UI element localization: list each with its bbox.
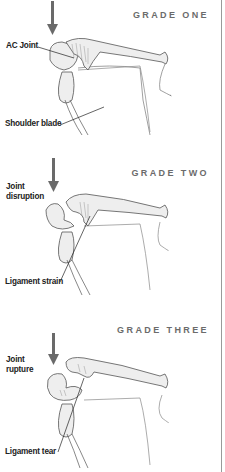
right-border: [221, 0, 222, 472]
grade-title: GRADE TWO: [131, 168, 209, 178]
force-arrow-icon: [48, 158, 59, 192]
label-joint-disruption: Joint disruption: [6, 182, 44, 202]
label-shoulder-blade: Shoulder blade: [5, 119, 61, 129]
grade-title: GRADE THREE: [117, 325, 209, 335]
force-arrow-icon: [47, 1, 58, 35]
panel-grade-two: GRADE TWO Joint disruption Ligament stra…: [0, 150, 221, 300]
panel-grade-one: GRADE ONE AC Joint Shoulder blade: [0, 0, 221, 150]
panel-grade-three: GRADE THREE Joint rupture Ligament tear: [0, 300, 221, 472]
label-joint-rupture: Joint rupture: [6, 355, 33, 375]
grade-title: GRADE ONE: [133, 10, 209, 20]
force-arrow-icon: [48, 333, 59, 365]
label-ligament-strain: Ligament strain: [5, 277, 63, 287]
label-ligament-tear: Ligament tear: [5, 447, 56, 457]
label-ac-joint: AC Joint: [6, 41, 38, 51]
